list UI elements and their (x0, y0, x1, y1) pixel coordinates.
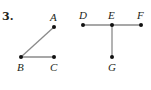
point-b (19, 55, 23, 59)
label-e: E (107, 9, 115, 21)
label-b: B (17, 61, 24, 73)
figure-t-shape-defg: D E F G (78, 9, 144, 73)
point-a (52, 25, 56, 29)
label-g: G (108, 61, 116, 73)
problem-number: 3. (2, 10, 13, 23)
point-f (139, 23, 143, 27)
segment-ba (21, 27, 54, 57)
point-c (52, 55, 56, 59)
geometry-figure: 3. A B C D E F G (0, 0, 151, 90)
label-c: C (50, 61, 58, 73)
point-g (110, 55, 114, 59)
figure-angle-abc: A B C (17, 11, 58, 73)
point-d (81, 23, 85, 27)
label-f: F (136, 9, 144, 21)
point-e (110, 23, 114, 27)
label-a: A (49, 11, 57, 23)
label-d: D (78, 9, 87, 21)
